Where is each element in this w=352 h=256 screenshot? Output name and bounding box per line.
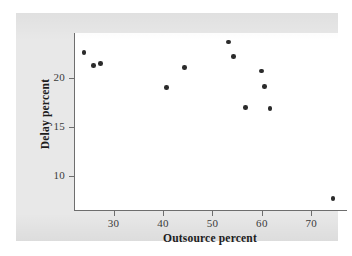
y-tick-mark	[69, 127, 74, 128]
data-point	[331, 196, 336, 201]
x-tick-mark	[114, 211, 115, 216]
data-point	[231, 54, 236, 59]
x-tick-mark	[163, 211, 164, 216]
x-tick-mark	[262, 211, 263, 216]
x-tick-label: 40	[143, 217, 183, 229]
data-point	[91, 63, 96, 68]
y-axis-label: Delay percent	[39, 54, 51, 174]
data-point	[164, 85, 169, 90]
data-point	[226, 40, 231, 45]
y-tick-mark	[69, 176, 74, 177]
data-point	[262, 84, 267, 89]
x-axis-line	[74, 210, 347, 211]
y-axis-line	[74, 33, 75, 211]
data-point	[182, 65, 187, 70]
x-tick-label: 30	[94, 217, 134, 229]
data-point	[82, 50, 87, 55]
data-point	[259, 69, 264, 74]
x-tick-label: 50	[192, 217, 232, 229]
data-point	[98, 61, 103, 66]
x-tick-mark	[311, 211, 312, 216]
data-point	[243, 105, 248, 110]
scatter-plot-figure: 3040506070 101520 Outsource percent Dela…	[0, 0, 352, 256]
plot-area	[74, 33, 346, 210]
figure-panel: 3040506070 101520 Outsource percent Dela…	[16, 13, 338, 241]
x-axis-label: Outsource percent	[74, 232, 346, 244]
x-tick-mark	[212, 211, 213, 216]
x-tick-label: 70	[291, 217, 331, 229]
x-tick-label: 60	[242, 217, 282, 229]
y-tick-mark	[69, 78, 74, 79]
data-point	[268, 106, 273, 111]
